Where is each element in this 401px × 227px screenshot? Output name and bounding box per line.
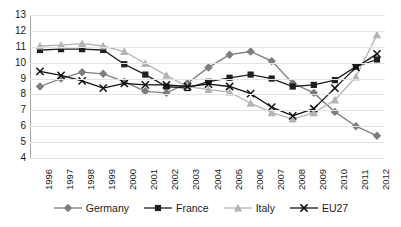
series-eu27 — [36, 50, 380, 119]
gridline — [30, 31, 385, 32]
x-axis-tick-label: 2007 — [276, 169, 286, 190]
y-axis-tick-label: 8 — [4, 89, 26, 99]
legend-label: Italy — [256, 203, 275, 214]
gridline — [30, 158, 385, 159]
x-axis-tick-label: 2004 — [213, 169, 223, 190]
y-axis-tick-label: 10 — [4, 58, 26, 68]
x-axis-tick-label: 2008 — [297, 169, 307, 190]
y-axis-tick-label: 5 — [4, 137, 26, 147]
legend-item-italy[interactable]: Italy — [223, 202, 275, 214]
data-point-marker — [246, 47, 254, 55]
x-axis-tick-label: 1999 — [107, 169, 117, 190]
legend-label: Germany — [86, 203, 129, 214]
data-point-marker — [248, 71, 254, 77]
x-axis-labels: 1996199719981999200020012002200320042005… — [30, 160, 385, 194]
x-axis-tick-label: 2002 — [170, 169, 180, 190]
legend-item-germany[interactable]: Germany — [53, 202, 129, 214]
x-axis-tick-label: 2003 — [191, 169, 201, 190]
x-axis-tick-label: 2009 — [318, 169, 328, 190]
gridline — [30, 79, 385, 80]
legend-marker-cross-icon — [289, 202, 319, 214]
gridline — [30, 94, 385, 95]
legend-label: France — [176, 203, 209, 214]
y-axis-tick-label: 11 — [4, 42, 26, 52]
gridline — [30, 15, 385, 16]
y-axis-tick-label: 4 — [4, 153, 26, 163]
data-point-marker — [36, 82, 44, 90]
x-axis-tick-label: 2001 — [149, 169, 159, 190]
gridline — [30, 142, 385, 143]
data-point-marker — [331, 84, 338, 91]
data-point-marker — [373, 132, 381, 140]
x-axis-tick-label: 2005 — [234, 169, 244, 190]
y-axis-tick-label: 13 — [4, 10, 26, 20]
x-axis-tick-label: 1998 — [86, 169, 96, 190]
y-axis-tick-label: 7 — [4, 105, 26, 115]
x-axis-tick-label: 2006 — [255, 169, 265, 190]
legend-marker-diamond-icon — [53, 202, 83, 214]
data-point-marker — [290, 83, 296, 89]
y-axis-tick-label: 6 — [4, 121, 26, 131]
plot-area — [30, 15, 385, 158]
data-point-marker — [246, 99, 254, 107]
x-axis-tick-label: 1997 — [65, 169, 75, 190]
gridline — [30, 63, 385, 64]
legend-marker-triangle-icon — [223, 202, 253, 214]
legend-marker-square-icon — [143, 202, 173, 214]
series-layer — [30, 15, 385, 158]
x-axis-tick-label: 1996 — [44, 169, 54, 190]
data-point-marker — [99, 70, 107, 78]
data-point-marker — [311, 82, 317, 88]
data-point-marker — [374, 56, 380, 62]
gridline — [30, 110, 385, 111]
y-axis-tick-label: 9 — [4, 74, 26, 84]
legend-item-france[interactable]: France — [143, 202, 209, 214]
gridline — [30, 47, 385, 48]
x-axis-tick-label: 2012 — [381, 169, 391, 190]
y-axis-labels: 45678910111213 — [0, 15, 26, 158]
chart-legend: GermanyFranceItalyEU27 — [0, 197, 401, 219]
gridline — [30, 126, 385, 127]
x-axis-tick-label: 2000 — [128, 169, 138, 190]
y-axis-tick-label: 12 — [4, 26, 26, 36]
legend-item-eu27[interactable]: EU27 — [289, 202, 348, 214]
data-point-marker — [162, 89, 170, 97]
data-point-marker — [78, 68, 86, 76]
data-point-marker — [225, 51, 233, 59]
x-axis-tick-label: 2010 — [339, 169, 349, 190]
x-axis-tick-label: 2011 — [360, 170, 370, 190]
data-point-marker — [142, 71, 148, 77]
legend-label: EU27 — [322, 203, 348, 214]
series-italy — [36, 31, 381, 123]
line-chart: 45678910111213 1996199719981999200020012… — [0, 0, 401, 227]
